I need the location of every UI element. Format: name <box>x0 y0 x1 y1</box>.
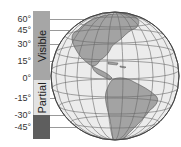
globe-illustration <box>0 0 181 147</box>
